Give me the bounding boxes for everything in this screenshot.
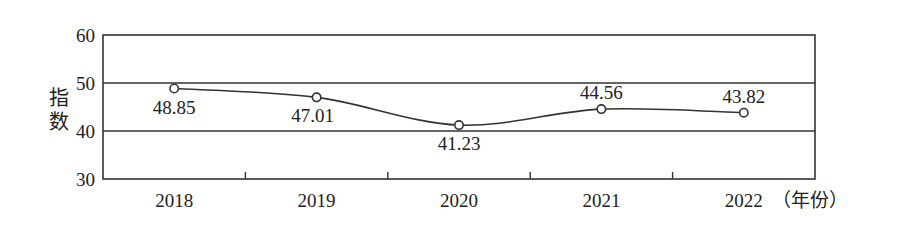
data-label: 44.56: [580, 82, 623, 103]
data-label: 41.23: [438, 133, 481, 154]
y-tick-label: 40: [76, 121, 95, 142]
data-point-marker: [170, 84, 178, 92]
data-markers: [170, 84, 748, 129]
x-axis-unit-label: （年份）: [772, 190, 848, 211]
data-point-marker: [312, 93, 320, 101]
series-line: [174, 89, 744, 126]
data-point-marker: [740, 108, 748, 116]
x-tick-label: 2020: [440, 190, 478, 211]
x-tick-label: 2018: [155, 190, 193, 211]
plot-frame: [103, 35, 815, 179]
data-point-marker: [455, 121, 463, 129]
x-tick-label: 2022: [725, 190, 763, 211]
y-axis-ticks: 30405060: [76, 25, 95, 190]
data-label: 43.82: [722, 86, 765, 107]
y-axis-title-char-1: 指: [47, 86, 71, 110]
y-tick-label: 60: [76, 25, 95, 46]
x-tick-label: 2019: [298, 190, 336, 211]
data-label: 48.85: [153, 97, 196, 118]
y-axis-title-char-2: 数: [47, 110, 71, 134]
x-axis-ticks: 20182019202020212022: [155, 172, 763, 211]
y-axis-title: 指 数: [47, 86, 71, 134]
data-label: 47.01: [291, 105, 334, 126]
y-tick-label: 50: [76, 73, 95, 94]
line-chart: 30405060 20182019202020212022 48.8547.01…: [0, 0, 898, 230]
data-point-marker: [597, 105, 605, 113]
data-labels: 48.8547.0141.2344.5643.82: [153, 82, 765, 154]
y-tick-label: 30: [76, 169, 95, 190]
x-tick-label: 2021: [582, 190, 620, 211]
plot-border: [103, 35, 815, 179]
